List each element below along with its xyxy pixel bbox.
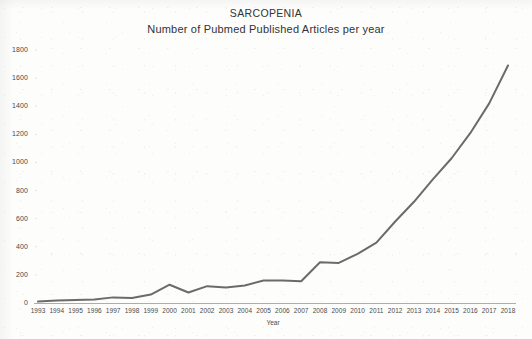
data-line-pubmed-articles [38,65,508,301]
chart-axes [34,50,516,304]
y-axis-tick-label: 200 [2,271,28,278]
y-axis-tick-label: 1400 [2,102,28,109]
y-axis-tick-label: 600 [2,215,28,222]
y-axis-tick-label: 0 [2,299,28,306]
chart-figure: SARCOPENIA Number of Pubmed Published Ar… [0,0,532,339]
chart-series-layer [38,65,508,301]
y-axis-tick-label: 1000 [2,158,28,165]
y-axis-tick-label: 1800 [2,46,28,53]
x-axis-tick-label: 2018 [495,307,521,314]
y-axis-tick-label: 400 [2,243,28,250]
y-axis-tick-label: 1600 [2,74,28,81]
line-chart-plot [0,0,532,339]
x-axis-label: Year [243,319,303,326]
y-axis-tick-label: 800 [2,187,28,194]
y-axis-tick-label: 1200 [2,130,28,137]
